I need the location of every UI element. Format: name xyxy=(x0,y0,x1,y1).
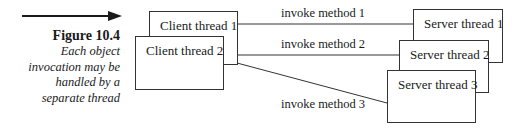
invoke-method-2-label: invoke method 2 xyxy=(281,37,365,52)
server-thread-2-label: Server thread 2 xyxy=(410,47,489,62)
server-thread-1-label: Server thread 1 xyxy=(424,16,503,31)
invoke-method-1-label: invoke method 1 xyxy=(281,6,365,21)
client-thread-2-label: Client thread 2 xyxy=(146,43,223,58)
server-thread-3-label: Server thread 3 xyxy=(398,77,477,92)
client-thread-1-label: Client thread 1 xyxy=(160,18,237,33)
client-thread-2-box: Client thread 2 xyxy=(135,36,224,90)
server-thread-3-box: Server thread 3 xyxy=(387,70,476,123)
invoke-method-3-label: invoke method 3 xyxy=(281,97,365,112)
